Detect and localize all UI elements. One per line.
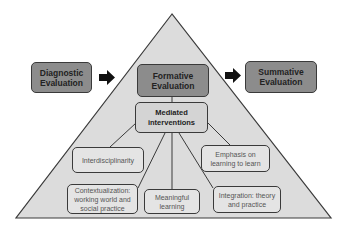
summative-evaluation-box: SummativeEvaluation [245, 61, 317, 93]
emphasis-line2: learning to learn [210, 159, 260, 168]
diagnostic-line1: Diagnostic [40, 68, 83, 78]
formative-line2: Evaluation [152, 81, 195, 91]
arrow-right-icon [99, 70, 115, 85]
integration-line1: Integration: theory [219, 191, 275, 200]
mediated-interventions-box: Mediatedinterventions [135, 102, 208, 133]
integration-line2: and practice [219, 200, 275, 209]
contextualization-line1: Contextualization: [74, 186, 130, 195]
mediated-line2: interventions [148, 118, 195, 128]
interdisciplinarity-box: Interdisciplinarity [72, 147, 144, 173]
diagnostic-line2: Evaluation [40, 78, 83, 88]
mediated-line1: Mediated [148, 108, 195, 118]
integration-box: Integration: theoryand practice [213, 186, 281, 213]
contextualization-line2: working world and [74, 195, 130, 204]
contextualization-box: Contextualization:working world andsocia… [67, 184, 138, 214]
emphasis-line1: Emphasis on [210, 150, 260, 159]
interdisciplinarity-label: Interdisciplinarity [82, 156, 134, 165]
formative-line1: Formative [152, 71, 195, 81]
formative-evaluation-box: FormativeEvaluation [137, 64, 209, 97]
meaningful-line2: learning [155, 202, 189, 211]
contextualization-line3: social practice [74, 204, 130, 213]
meaningful-learning-box: Meaningfullearning [144, 189, 200, 214]
summative-line1: Summative [258, 67, 303, 77]
meaningful-line1: Meaningful [155, 193, 189, 202]
diagnostic-evaluation-box: DiagnosticEvaluation [31, 62, 92, 93]
arrow-right-icon [225, 68, 241, 83]
summative-line2: Evaluation [258, 77, 303, 87]
emphasis-learning-box: Emphasis onlearning to learn [201, 145, 270, 172]
